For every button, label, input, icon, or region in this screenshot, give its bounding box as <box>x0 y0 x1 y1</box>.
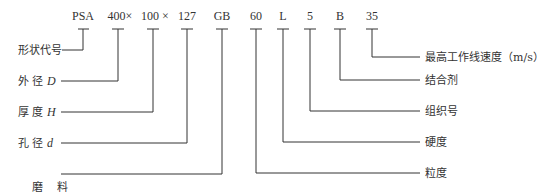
connector-shape-code <box>62 29 83 50</box>
connector-hardness <box>283 29 420 142</box>
label-max-speed: 最高工作线速度（m/s） <box>425 51 544 64</box>
label-text: 孔 径 <box>18 137 47 150</box>
code-structure: 5 <box>307 9 313 23</box>
code-hardness: L <box>279 9 286 23</box>
label-bond: 结合剂 <box>425 74 458 87</box>
code-grit: 60 <box>250 9 262 23</box>
label-text: 形状代号 <box>18 44 62 57</box>
connector-abrasive <box>61 29 222 174</box>
label-text: 厚 度 <box>18 106 47 119</box>
code-outer-diameter: 400× <box>108 9 133 23</box>
label-symbol: D <box>47 74 56 88</box>
code-shape: PSA <box>72 9 94 23</box>
code-max-speed: 35 <box>366 9 378 23</box>
label-outer-diameter: 外 径 D <box>18 75 56 88</box>
label-symbol: d <box>47 136 53 150</box>
label-grit: 粒度 <box>425 167 447 180</box>
connector-structure <box>310 29 420 111</box>
label-abrasive: 磨 料 <box>18 168 68 193</box>
code-bond: B <box>336 9 344 23</box>
label-bore: 孔 径 d <box>18 137 53 150</box>
label-text: 磨 料 <box>32 181 68 193</box>
connector-bore <box>61 29 187 143</box>
connector-max-speed <box>372 29 420 57</box>
connector-bond <box>340 29 420 80</box>
code-abrasive: GB <box>214 9 231 23</box>
label-hardness: 硬度 <box>425 136 447 149</box>
label-shape-code: 形状代号 <box>18 44 62 57</box>
connector-lines <box>0 0 548 193</box>
label-thickness: 厚 度 H <box>18 106 56 119</box>
connector-grit <box>256 29 420 173</box>
label-structure: 组织号 <box>425 105 458 118</box>
code-bore: 127 <box>178 9 196 23</box>
wheel-designation-diagram: PSA 400× 100 × 127 GB 60 L 5 B 35 形状代号 外… <box>0 0 548 193</box>
label-text: 外 径 <box>18 75 47 88</box>
connector-thickness <box>61 29 153 112</box>
code-thickness: 100 × <box>141 9 169 23</box>
connector-outer-diameter <box>61 29 118 81</box>
label-symbol: H <box>47 105 56 119</box>
